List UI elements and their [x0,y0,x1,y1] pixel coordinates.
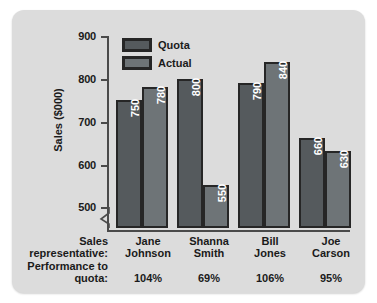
bar-value-label: 550 [216,184,228,202]
bar-actual-shanna-smith: 550 [203,185,229,228]
performance-value-joe-carson: 95% [300,272,362,284]
row-header-line2: quota: [26,272,108,284]
category-label-jane-johnson: Jane Johnson [117,235,179,259]
bar-quota-shanna-smith: 800 [177,79,203,228]
y-tick-label-900: 900 [60,30,96,42]
y-tick-700 [101,122,108,124]
category-line1: Shanna [178,235,240,247]
category-line2: Carson [300,247,362,259]
bar-value-label: 750 [129,99,141,117]
category-line2: Johnson [117,247,179,259]
y-axis-title: Sales ($000) [52,65,64,175]
row-header-line1: Sales [26,235,108,247]
category-label-bill-jones: Bill Jones [239,235,301,259]
bar-actual-bill-jones: 840 [264,62,290,228]
performance-value-jane-johnson: 104% [117,272,179,284]
bar-value-label: 660 [312,137,324,155]
category-line1: Bill [239,235,301,247]
bar-value-label: 780 [155,86,167,104]
row-header-line2: representative: [26,247,108,259]
performance-value-bill-jones: 106% [239,272,301,284]
bar-actual-joe-carson: 630 [325,151,351,228]
category-line2: Smith [178,247,240,259]
y-tick-label-500: 500 [60,201,96,213]
bar-value-label: 800 [190,78,202,96]
y-tick-label-800: 800 [60,73,96,85]
row-header-performance-to-quota: Performance to quota: [26,260,108,284]
plot-area: 750 780 800 550 790 840 660 630 [108,36,348,228]
category-line1: Jane [117,235,179,247]
category-label-joe-carson: Joe Carson [300,235,362,259]
bar-quota-jane-johnson: 750 [116,100,142,228]
category-line2: Jones [239,247,301,259]
category-line1: Joe [300,235,362,247]
bar-quota-bill-jones: 790 [238,83,264,228]
x-axis-line [107,230,350,232]
y-tick-label-700: 700 [60,116,96,128]
chart-panel: 900 800 700 600 500 Sales ($000) Quota A… [12,10,365,293]
row-header-line1: Performance to [26,260,108,272]
bar-value-label: 840 [277,61,289,79]
y-tick-800 [101,79,108,81]
y-tick-600 [101,165,108,167]
bar-quota-joe-carson: 660 [299,138,325,228]
bar-value-label: 630 [338,150,350,168]
performance-value-shanna-smith: 69% [178,272,240,284]
category-label-shanna-smith: Shanna Smith [178,235,240,259]
row-header-sales-representative: Sales representative: [26,235,108,259]
bar-actual-jane-johnson: 780 [142,87,168,228]
bar-value-label: 790 [251,82,263,100]
y-tick-label-600: 600 [60,159,96,171]
y-tick-900 [101,36,108,38]
